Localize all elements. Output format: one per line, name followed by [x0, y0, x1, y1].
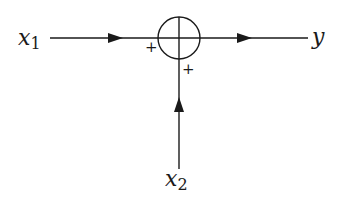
label-x1: x1 [18, 25, 41, 53]
output-y-arrow-icon [237, 33, 252, 43]
sign-x1: + [145, 38, 158, 56]
block-diagram: + + x1 y x2 [0, 0, 341, 200]
input-x1-arrow-icon [108, 33, 123, 43]
sign-x2: + [182, 60, 195, 78]
label-x2: x2 [165, 166, 188, 194]
summing-junction [158, 17, 200, 59]
input-x2-arrow-icon [174, 97, 184, 112]
label-y: y [311, 24, 325, 49]
